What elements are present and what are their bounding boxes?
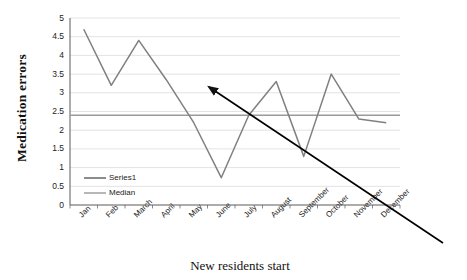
x-axis-tick-marks	[70, 205, 400, 209]
chart-gridlines	[70, 18, 400, 205]
downward-trend-arrow	[209, 87, 443, 243]
chart-plot-area	[0, 0, 467, 280]
chart-figure: Medication errors New residents start 00…	[0, 0, 467, 280]
